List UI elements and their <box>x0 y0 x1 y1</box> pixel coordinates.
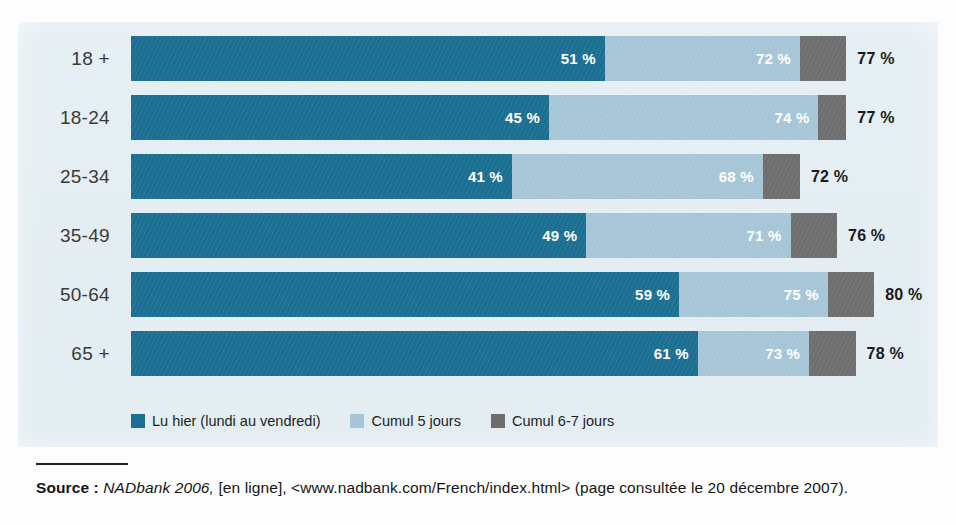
bar-segment-lu-hier: 45 % <box>131 95 549 140</box>
legend-item: Cumul 5 jours <box>350 413 460 429</box>
segment-value-label: 71 % <box>747 227 791 244</box>
segment-value-label: 41 % <box>468 168 512 185</box>
source-details: [en ligne], <www.nadbank.com/French/inde… <box>214 479 848 496</box>
segment-value-label: 73 % <box>765 345 809 362</box>
legend-label: Cumul 5 jours <box>371 413 460 429</box>
bar-segment-lu-hier: 49 % <box>131 213 586 258</box>
bar-track: 73 %61 % <box>131 331 856 376</box>
total-value-label: 80 % <box>874 272 922 317</box>
segment-value-label: 59 % <box>635 286 679 303</box>
total-value-label: 72 % <box>800 154 848 199</box>
category-label: 18-24 <box>0 95 110 140</box>
legend-label: Lu hier (lundi au vendredi) <box>152 413 320 429</box>
scanned-page: 18 +72 %51 %77 %18-2474 %45 %77 %25-3468… <box>0 0 956 525</box>
chart-row: 50-6475 %59 %80 % <box>0 272 956 317</box>
chart-row: 65 +73 %61 %78 % <box>0 331 956 376</box>
legend-label: Cumul 6-7 jours <box>512 413 614 429</box>
chart-row: 18-2474 %45 %77 % <box>0 95 956 140</box>
total-value-label: 77 % <box>846 36 894 81</box>
category-label: 65 + <box>0 331 110 376</box>
segment-value-label: 51 % <box>561 50 605 67</box>
chart-row: 35-4971 %49 %76 % <box>0 213 956 258</box>
source-publication: NADbank 2006, <box>103 479 214 496</box>
category-label: 50-64 <box>0 272 110 317</box>
category-label: 18 + <box>0 36 110 81</box>
bar-track: 74 %45 % <box>131 95 846 140</box>
segment-value-label: 45 % <box>505 109 549 126</box>
legend-item: Lu hier (lundi au vendredi) <box>131 413 320 429</box>
bar-segment-lu-hier: 41 % <box>131 154 512 199</box>
segment-value-label: 68 % <box>719 168 763 185</box>
category-label: 25-34 <box>0 154 110 199</box>
chart-row: 25-3468 %41 %72 % <box>0 154 956 199</box>
bar-track: 72 %51 % <box>131 36 846 81</box>
bar-track: 75 %59 % <box>131 272 874 317</box>
source-label: Source : <box>36 479 99 496</box>
bar-track: 68 %41 % <box>131 154 800 199</box>
category-label: 35-49 <box>0 213 110 258</box>
total-value-label: 76 % <box>837 213 885 258</box>
segment-value-label: 75 % <box>784 286 828 303</box>
legend-swatch-cumul-6-7-jours <box>491 414 505 428</box>
chart-legend: Lu hier (lundi au vendredi)Cumul 5 jours… <box>131 413 614 429</box>
segment-value-label: 61 % <box>654 345 698 362</box>
source-divider <box>36 463 128 465</box>
total-value-label: 77 % <box>846 95 894 140</box>
bar-segment-lu-hier: 51 % <box>131 36 605 81</box>
total-value-label: 78 % <box>856 331 904 376</box>
segment-value-label: 72 % <box>756 50 800 67</box>
bar-segment-lu-hier: 61 % <box>131 331 698 376</box>
legend-swatch-cumul-5-jours <box>350 414 364 428</box>
source-text: Source : NADbank 2006, [en ligne], <www.… <box>36 476 916 500</box>
chart-row: 18 +72 %51 %77 % <box>0 36 956 81</box>
bar-segment-lu-hier: 59 % <box>131 272 679 317</box>
segment-value-label: 49 % <box>542 227 586 244</box>
stacked-bar-chart: 18 +72 %51 %77 %18-2474 %45 %77 %25-3468… <box>0 0 956 378</box>
legend-item: Cumul 6-7 jours <box>491 413 614 429</box>
segment-value-label: 74 % <box>774 109 818 126</box>
source-note: Source : NADbank 2006, [en ligne], <www.… <box>36 463 916 500</box>
legend-swatch-lu-hier <box>131 414 145 428</box>
bar-track: 71 %49 % <box>131 213 837 258</box>
